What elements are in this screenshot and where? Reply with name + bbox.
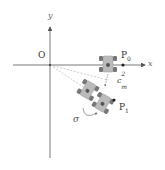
dashed-line-to-robot-0 (50, 65, 108, 80)
displacement-arrow (105, 74, 108, 86)
dashed-line-to-robot-1 (50, 65, 88, 90)
c-m-2-label: c2m (117, 77, 131, 85)
robot-at-p0-icon (99, 56, 117, 72)
origin-point (49, 64, 51, 66)
robot-intermediate-icon (76, 79, 100, 102)
p1-label: P1 (119, 103, 129, 112)
y-axis-label: y (48, 12, 53, 20)
p0-label: P0 (121, 51, 131, 60)
point-p0 (121, 63, 124, 66)
rotation-arrow (83, 108, 97, 116)
coordinate-diagram (0, 0, 165, 170)
sigma-label: σ (73, 115, 79, 124)
x-axis-label: x (148, 60, 153, 68)
point-p1 (112, 98, 115, 101)
origin-label: O (38, 51, 45, 60)
robot-at-p1-icon (91, 92, 115, 115)
